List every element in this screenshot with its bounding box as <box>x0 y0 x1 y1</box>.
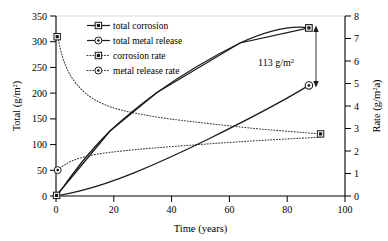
left-tick-150: 150 <box>32 113 47 124</box>
x-tick-80: 80 <box>282 204 292 215</box>
left-axis-tick-labels: 0 50 100 150 200 250 300 350 <box>32 11 47 202</box>
left-tick-250: 250 <box>32 62 47 73</box>
right-axis-tick-labels: 0 1 2 3 4 5 6 7 8 <box>354 11 359 202</box>
legend-label-metal-release-rate: metal release rate <box>113 66 179 76</box>
left-tick-0: 0 <box>42 191 47 202</box>
left-tick-300: 300 <box>32 36 47 47</box>
right-tick-5: 5 <box>354 78 359 89</box>
right-tick-0: 0 <box>354 191 359 202</box>
x-axis-title: Time (years) <box>174 223 228 235</box>
left-tick-200: 200 <box>32 88 47 99</box>
right-tick-7: 7 <box>354 33 359 44</box>
y-axis-title: Total (g/m2) <box>11 80 24 131</box>
left-tick-350: 350 <box>32 11 47 22</box>
annotation-label-text: 113 g/m <box>258 57 291 68</box>
x-axis-tick-labels: 0 20 40 60 80 100 <box>54 204 353 215</box>
x-tick-20: 20 <box>109 204 119 215</box>
y-axis-title-main: Total (g/m <box>11 87 23 131</box>
x-axis-ticks <box>56 196 345 202</box>
x-tick-60: 60 <box>224 204 234 215</box>
annotation-label: 113 g/m2 <box>258 57 294 69</box>
legend-label-corrosion-rate: corrosion rate <box>113 51 166 61</box>
y2-axis-title: Rate (g/m2a) <box>371 79 384 133</box>
x-tick-0: 0 <box>54 204 59 215</box>
right-tick-3: 3 <box>354 123 359 134</box>
svg-text:Total (g/m2): Total (g/m2) <box>11 80 24 131</box>
right-axis-ticks <box>345 16 351 196</box>
right-tick-8: 8 <box>354 11 359 22</box>
left-tick-100: 100 <box>32 139 47 150</box>
right-tick-6: 6 <box>354 56 359 67</box>
x-tick-40: 40 <box>167 204 177 215</box>
y2-axis-title-main: Rate (g/m <box>371 91 383 133</box>
legend-label-total-corrosion: total corrosion <box>113 21 168 31</box>
annotation-label-sup: 2 <box>291 57 294 64</box>
right-tick-2: 2 <box>354 146 359 157</box>
right-tick-4: 4 <box>354 101 359 112</box>
x-tick-100: 100 <box>338 204 353 215</box>
chart-container: 0 50 100 150 200 250 300 350 0 1 2 3 4 <box>0 0 388 241</box>
right-tick-1: 1 <box>354 168 359 179</box>
legend-label-total-metal-release: total metal release <box>113 36 182 46</box>
left-tick-50: 50 <box>37 165 47 176</box>
y2-axis-title-close: a) <box>371 79 383 88</box>
y-axis-title-close: ) <box>11 80 23 84</box>
corrosion-rate-chart: 0 50 100 150 200 250 300 350 0 1 2 3 4 <box>0 0 388 241</box>
svg-text:Rate (g/m2a): Rate (g/m2a) <box>371 79 384 133</box>
